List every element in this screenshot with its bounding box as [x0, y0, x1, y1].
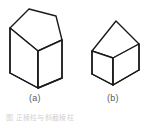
figure-container: (a) (b) 图 正棱柱与斜截棱柱 — [0, 0, 149, 123]
panel-label-a: (a) — [29, 93, 41, 104]
solid-a-pentagonal-prism — [10, 9, 62, 88]
figure-footnote: 图 正棱柱与斜截棱柱 — [6, 113, 146, 122]
panel-label-b: (b) — [107, 93, 119, 104]
panel-caption-row: (a) (b) — [0, 93, 149, 107]
solid-b-truncated-prism — [92, 21, 139, 85]
